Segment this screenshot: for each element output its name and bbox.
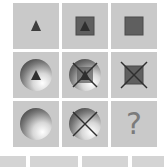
answer-option[interactable]: [132, 156, 164, 167]
triangle-icon: [13, 3, 59, 49]
square-icon: [111, 3, 157, 49]
question-mark: ?: [126, 109, 142, 139]
answer-option[interactable]: [0, 156, 26, 167]
answer-option[interactable]: [30, 156, 78, 167]
answer-options-strip: [0, 156, 164, 167]
sphere-with-triangle-icon: [13, 52, 59, 98]
cell-r1-c1: [13, 3, 59, 49]
cell-r3-c1: [13, 101, 59, 147]
cell-r2-c1: [13, 52, 59, 98]
sphere-with-cross-icon: [62, 101, 108, 147]
sphere-square-triangle-cross-icon: [62, 52, 108, 98]
cell-r2-c2: [62, 52, 108, 98]
cell-r3-c3-missing: ?: [111, 101, 157, 147]
square-with-cross-icon: [111, 52, 157, 98]
cell-r2-c3: [111, 52, 157, 98]
puzzle-matrix: ?: [13, 3, 157, 147]
cell-r1-c3: [111, 3, 157, 49]
cell-r1-c2: [62, 3, 108, 49]
square-with-triangle-icon: [62, 3, 108, 49]
cell-r3-c2: [62, 101, 108, 147]
sphere-icon: [13, 101, 59, 147]
answer-option[interactable]: [82, 156, 128, 167]
